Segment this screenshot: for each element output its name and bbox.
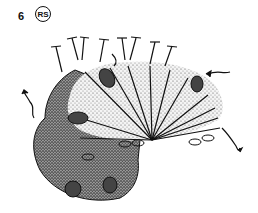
crochet-diagram bbox=[0, 0, 258, 213]
arrow-bottom-right bbox=[222, 128, 240, 150]
bobble-bottom-right bbox=[103, 177, 117, 193]
bobble-right bbox=[191, 76, 203, 92]
bobble-left bbox=[68, 112, 88, 124]
bobble-bottom-left bbox=[65, 181, 81, 197]
arrow-left bbox=[24, 92, 34, 118]
